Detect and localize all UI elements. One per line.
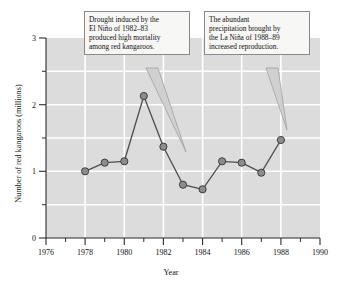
x-axis-title: Year bbox=[0, 268, 342, 277]
x-tick-label: 1986 bbox=[234, 248, 250, 257]
callout-line: The abundant bbox=[209, 15, 305, 24]
data-point bbox=[238, 159, 245, 166]
x-tick-label: 1988 bbox=[273, 248, 289, 257]
data-point bbox=[199, 186, 206, 193]
y-tick-label: 0 bbox=[32, 234, 36, 243]
data-point bbox=[140, 92, 147, 99]
data-point bbox=[82, 168, 89, 175]
drought-callout: Drought induced by the El Niño of 1982–8… bbox=[84, 11, 190, 55]
data-point bbox=[160, 143, 167, 150]
y-axis-tick-labels: 0 1 2 3 bbox=[32, 34, 36, 243]
x-axis-tick-labels: 1976 1978 1980 1982 1984 1986 1988 1990 bbox=[38, 248, 328, 257]
callout-line: increased reproduction. bbox=[209, 42, 305, 51]
data-point bbox=[101, 159, 108, 166]
y-axis-title: Number of red kangaroos (millions) bbox=[14, 34, 23, 254]
callout-line: Drought induced by the bbox=[89, 15, 185, 24]
precipitation-callout: The abundant precipitation brought by th… bbox=[204, 11, 310, 55]
x-axis-minor-ticks bbox=[66, 238, 301, 242]
callout-line: precipitation brought by bbox=[209, 24, 305, 33]
kangaroo-population-figure: 0 1 2 3 1976 1978 1980 1982 1984 1986 19… bbox=[0, 0, 342, 287]
data-point bbox=[179, 181, 186, 188]
x-tick-label: 1976 bbox=[38, 248, 54, 257]
callout-line: produced high mortality bbox=[89, 33, 185, 42]
y-tick-label: 2 bbox=[32, 101, 36, 110]
y-tick-label: 3 bbox=[32, 34, 36, 43]
data-point bbox=[258, 169, 265, 176]
data-point bbox=[219, 158, 226, 165]
data-point bbox=[277, 136, 284, 143]
x-tick-label: 1980 bbox=[116, 248, 132, 257]
x-tick-label: 1978 bbox=[77, 248, 93, 257]
callout-line: among red kangaroos. bbox=[89, 42, 185, 51]
y-axis-minor-ticks bbox=[42, 71, 46, 204]
callout-line: the La Niña of 1988–89 bbox=[209, 33, 305, 42]
data-point bbox=[121, 158, 128, 165]
y-tick-label: 1 bbox=[32, 167, 36, 176]
x-tick-label: 1990 bbox=[312, 248, 328, 257]
x-tick-label: 1984 bbox=[195, 248, 211, 257]
x-tick-label: 1982 bbox=[155, 248, 171, 257]
callout-line: El Niño of 1982–83 bbox=[89, 24, 185, 33]
